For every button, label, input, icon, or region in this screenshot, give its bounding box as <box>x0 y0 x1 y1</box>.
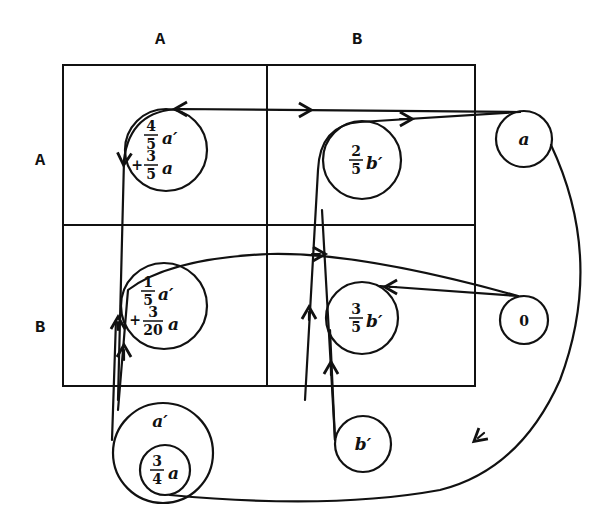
svg-text:5: 5 <box>146 166 156 182</box>
svg-text:3: 3 <box>146 148 156 164</box>
node-circle-ba <box>121 263 207 349</box>
row-header-b: B <box>35 318 45 337</box>
node-circle-a-prime-inner <box>140 445 190 495</box>
svg-text:b′: b′ <box>366 153 383 173</box>
svg-text:2: 2 <box>351 143 361 159</box>
source-b-prime-label: b′ <box>355 434 372 454</box>
node-aa-label: 4 5 a′ + 3 5 a <box>131 118 178 182</box>
svg-text:4: 4 <box>152 471 162 487</box>
column-header-a: A <box>155 30 166 49</box>
svg-text:3: 3 <box>148 304 158 320</box>
source-a-prime-inner-label: 3 4 a <box>150 453 179 487</box>
node-ab-label: 2 5 b′ <box>349 143 383 177</box>
svg-text:a: a <box>162 158 173 178</box>
svg-text:+: + <box>129 312 141 328</box>
node-bb-label: 3 5 b′ <box>349 301 383 335</box>
svg-text:3: 3 <box>152 453 162 469</box>
source-zero-label: 0 <box>519 313 529 329</box>
svg-text:b′: b′ <box>366 311 383 331</box>
svg-text:a′: a′ <box>162 128 178 148</box>
source-a-label: a <box>518 129 529 149</box>
svg-text:a: a <box>168 463 179 483</box>
svg-text:a′: a′ <box>158 284 174 304</box>
flow-paths <box>112 109 580 501</box>
row-header-a: A <box>35 151 46 170</box>
svg-text:20: 20 <box>143 322 163 338</box>
svg-text:a: a <box>168 314 179 334</box>
svg-text:5: 5 <box>351 161 361 177</box>
node-circle-aa <box>125 109 207 191</box>
svg-text:+: + <box>131 157 143 173</box>
svg-text:3: 3 <box>351 301 361 317</box>
source-a-prime-label: a′ <box>152 411 168 431</box>
column-header-b: B <box>352 30 362 49</box>
svg-text:1: 1 <box>143 274 153 290</box>
flow-diagram: A B A B <box>0 0 608 531</box>
svg-text:5: 5 <box>351 319 361 335</box>
svg-text:4: 4 <box>146 118 156 134</box>
